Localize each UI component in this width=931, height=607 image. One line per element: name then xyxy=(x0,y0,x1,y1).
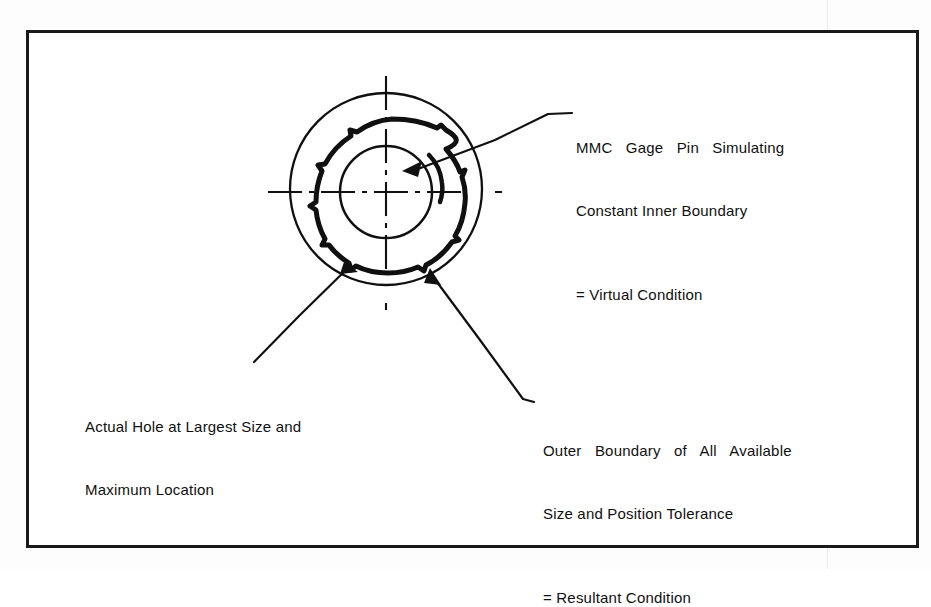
leader-outer-boundary xyxy=(424,268,534,402)
callout-mmc-gage-pin: MMC Gage Pin Simulating Constant Inner B… xyxy=(576,95,784,326)
callout-outer-boundary-equals: = Resultant Condition xyxy=(543,587,792,607)
callout-mmc-line2: Constant Inner Boundary xyxy=(576,200,784,221)
leader-actual-hole xyxy=(254,262,358,362)
callout-actual-hole: Actual Hole at Largest Size and Maximum … xyxy=(85,374,301,521)
callout-outer-boundary-line2: Size and Position Tolerance xyxy=(543,503,792,524)
centerlines-group xyxy=(268,76,506,311)
callout-outer-boundary: Outer Boundary of All Available Size and… xyxy=(543,398,792,607)
callout-actual-hole-line2: Maximum Location xyxy=(85,479,301,500)
callout-actual-hole-line1: Actual Hole at Largest Size and xyxy=(85,416,301,437)
leader-arrowhead-mmc xyxy=(402,161,422,177)
callout-mmc-equals: = Virtual Condition xyxy=(576,284,784,305)
callout-mmc-line1: MMC Gage Pin Simulating xyxy=(576,137,784,158)
callout-outer-boundary-line1: Outer Boundary of All Available xyxy=(543,440,792,461)
